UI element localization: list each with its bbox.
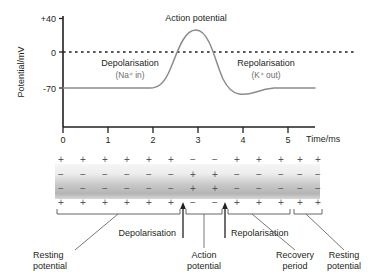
- label-action-potential-membrane: Action potential: [187, 250, 221, 271]
- charge-sign: +: [212, 183, 218, 194]
- charge-sign: −: [212, 154, 218, 165]
- charge-sign: +: [102, 197, 108, 208]
- charge-sign: +: [80, 154, 86, 165]
- annotation-repolarisation: Repolarisation: [237, 58, 295, 68]
- annotation-depolarisation: Depolarisation: [101, 58, 159, 68]
- label-resting-potential-right-line2: potential: [327, 261, 361, 271]
- charge-sign: −: [297, 169, 303, 180]
- charge-sign: +: [102, 154, 108, 165]
- x-tick-label-0: 0: [60, 135, 65, 145]
- charge-sign: +: [234, 154, 240, 165]
- charge-sign: −: [124, 183, 130, 194]
- annotation-action-potential: Action potential: [165, 13, 227, 23]
- charge-sign: +: [190, 183, 196, 194]
- charge-sign: −: [190, 197, 196, 208]
- bracket-action-potential: [186, 209, 222, 214]
- charge-sign: +: [146, 197, 152, 208]
- charge-sign: +: [278, 154, 284, 165]
- label-recovery-period: Recovery period: [276, 250, 315, 271]
- x-tick-label-2: 2: [150, 135, 155, 145]
- label-action-potential-line1: Action: [191, 250, 216, 260]
- leader-resting-right: [306, 214, 344, 250]
- bracket-resting-right: [294, 209, 322, 214]
- charge-sign: +: [297, 154, 303, 165]
- label-resting-potential-right: Resting potential: [327, 250, 361, 271]
- charge-sign: +: [256, 197, 262, 208]
- label-depolarisation-membrane: Depolarisation: [118, 228, 176, 238]
- charge-sign: −: [102, 169, 108, 180]
- label-recovery-period-line2: period: [282, 261, 307, 271]
- depolarisation-arrow-head: [180, 202, 186, 209]
- charge-sign: −: [297, 183, 303, 194]
- charge-sign: −: [102, 183, 108, 194]
- charge-sign: +: [168, 197, 174, 208]
- annotation-repolarisation-ion: (K⁺ out): [251, 70, 280, 80]
- label-action-potential-line2: potential: [187, 261, 221, 271]
- charge-sign: −: [168, 183, 174, 194]
- charge-sign: −: [315, 169, 321, 180]
- charge-sign: +: [297, 197, 303, 208]
- leader-lines: [75, 214, 344, 250]
- x-tick-label-3: 3: [195, 135, 200, 145]
- charge-sign: +: [58, 197, 64, 208]
- charge-sign: −: [234, 183, 240, 194]
- y-tick-label-minus70: -70: [43, 84, 56, 94]
- label-resting-potential-left-line2: potential: [33, 261, 67, 271]
- charge-sign: +: [212, 169, 218, 180]
- x-axis-label: Time/ms: [306, 134, 341, 144]
- charge-sign: +: [124, 197, 130, 208]
- charge-sign: −: [80, 183, 86, 194]
- charge-sign: −: [315, 183, 321, 194]
- membrane-row-outer-top: + + + + + + − − + + + + +: [58, 154, 321, 165]
- charge-sign: +: [278, 197, 284, 208]
- charge-sign: −: [168, 169, 174, 180]
- charge-sign: −: [256, 169, 262, 180]
- charge-sign: +: [80, 197, 86, 208]
- label-resting-potential-left-line1: Resting: [33, 250, 64, 260]
- label-resting-potential-left: Resting potential: [33, 250, 67, 271]
- bracket-resting-left: [57, 209, 180, 214]
- repolarisation-arrow-head: [222, 202, 228, 209]
- charge-sign: −: [212, 197, 218, 208]
- leader-resting-left: [75, 214, 118, 250]
- charge-sign: −: [190, 154, 196, 165]
- label-resting-potential-right-line1: Resting: [329, 250, 360, 260]
- charge-sign: −: [80, 169, 86, 180]
- x-tick-label-1: 1: [105, 135, 110, 145]
- annotation-depolarisation-ion: (Na⁺ in): [115, 70, 144, 80]
- bracket-recovery-period: [228, 209, 290, 214]
- charge-sign: +: [315, 197, 321, 208]
- action-potential-figure: +40 0 -70 Potential/mV 0 1 2 3 4 5 Time/…: [0, 0, 373, 280]
- charge-sign: −: [146, 169, 152, 180]
- y-tick-label-plus40: +40: [41, 14, 56, 24]
- diagram-canvas: +40 0 -70 Potential/mV 0 1 2 3 4 5 Time/…: [0, 0, 373, 280]
- charge-sign: −: [124, 169, 130, 180]
- y-axis-label: Potential/mV: [16, 46, 26, 97]
- y-tick-label-zero: 0: [51, 48, 56, 58]
- charge-sign: −: [146, 183, 152, 194]
- x-tick-label-5: 5: [285, 135, 290, 145]
- charge-sign: +: [190, 169, 196, 180]
- label-repolarisation-membrane: Repolarisation: [231, 228, 289, 238]
- region-brackets: [57, 209, 322, 214]
- charge-sign: −: [278, 169, 284, 180]
- x-tick-label-4: 4: [240, 135, 245, 145]
- charge-sign: −: [58, 169, 64, 180]
- label-recovery-period-line1: Recovery: [276, 250, 315, 260]
- charge-sign: −: [278, 183, 284, 194]
- charge-sign: +: [234, 197, 240, 208]
- charge-sign: −: [58, 183, 64, 194]
- charge-sign: +: [315, 154, 321, 165]
- charge-sign: +: [58, 154, 64, 165]
- charge-sign: +: [168, 154, 174, 165]
- charge-sign: +: [146, 154, 152, 165]
- charge-sign: +: [256, 154, 262, 165]
- charge-sign: −: [234, 169, 240, 180]
- charge-sign: −: [256, 183, 262, 194]
- charge-sign: +: [124, 154, 130, 165]
